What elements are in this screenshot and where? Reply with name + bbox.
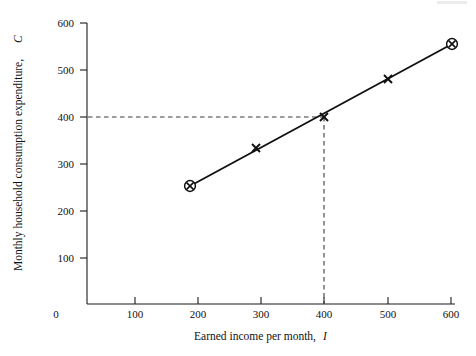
x-axis-title: Earned income per month, I [194,330,328,343]
x-axis-title-text: Earned income per month, [194,330,316,343]
y-ticklabel-100: 100 [58,252,75,264]
consumption-function-chart: 600 500 400 300 200 100 Monthly househol… [0,0,476,356]
x-ticklabel-100: 100 [127,308,144,320]
chart-figure: 600 500 400 300 200 100 Monthly househol… [0,0,476,356]
y-axis-title: Monthly household consumption expenditur… [12,35,25,271]
y-axis-title-variable: C [12,35,24,43]
data-point-600 [447,39,458,50]
scan-artifact [437,1,467,4]
x-ticklabel-500: 500 [380,308,397,320]
data-point-200 [185,181,196,192]
y-ticklabel-300: 300 [58,158,75,170]
y-axis-title-text: Monthly household consumption expenditur… [12,59,25,271]
x-ticklabel-300: 300 [253,308,270,320]
chart-background [0,0,476,356]
y-ticklabel-400: 400 [58,111,75,123]
y-ticklabel-600: 600 [58,17,75,29]
x-ticklabel-600: 600 [443,308,460,320]
y-ticklabel-200: 200 [58,205,75,217]
x-ticklabel-200: 200 [190,308,207,320]
x-ticklabel-0: 0 [53,308,59,320]
y-ticklabel-500: 500 [58,64,75,76]
x-ticklabel-400: 400 [316,308,333,320]
